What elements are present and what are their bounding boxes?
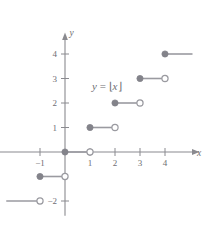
closed-endpoint-marker <box>137 75 143 81</box>
closed-endpoint-marker <box>112 100 118 106</box>
closed-endpoint-marker <box>87 124 93 130</box>
open-endpoint-marker <box>62 173 68 179</box>
y-tick-label: −2 <box>47 196 57 206</box>
closed-endpoint-marker <box>37 173 43 179</box>
open-endpoint-marker <box>112 124 118 130</box>
closed-endpoint-marker <box>62 149 68 155</box>
open-endpoint-marker <box>137 100 143 106</box>
open-endpoint-marker <box>162 75 168 81</box>
cartesian-plot: xy−112344321−2y = ⌊x⌋ <box>0 0 216 234</box>
y-tick-label: 1 <box>53 123 58 133</box>
x-tick-label: 1 <box>88 158 93 168</box>
y-axis-label: y <box>69 28 75 38</box>
x-tick-label: −1 <box>35 158 45 168</box>
y-tick-label: 2 <box>53 98 58 108</box>
closed-endpoint-marker <box>162 51 168 57</box>
y-tick-label: 3 <box>53 74 58 84</box>
x-axis-label: x <box>196 148 202 158</box>
function-label: y = ⌊x⌋ <box>91 80 122 92</box>
x-tick-label: 2 <box>113 158 118 168</box>
y-axis-arrowhead <box>62 32 68 40</box>
open-endpoint-marker <box>87 149 93 155</box>
x-tick-label: 4 <box>163 158 168 168</box>
x-tick-label: 3 <box>138 158 143 168</box>
y-tick-label: 4 <box>53 49 58 59</box>
floor-function-figure: xy−112344321−2y = ⌊x⌋ <box>0 0 216 234</box>
open-endpoint-marker <box>37 198 43 204</box>
